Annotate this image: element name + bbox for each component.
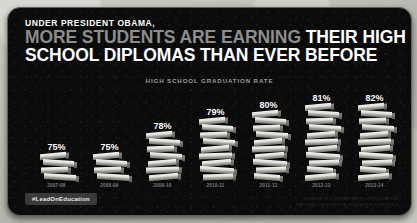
source-line-2: NATIONAL CENTER FOR EDUCATION STATISTICS [296,202,399,208]
book-icon [305,173,336,182]
book-icon [309,159,339,166]
bar-column: 80%2011-12 [242,100,295,188]
book-stack [146,132,180,180]
headline-line-2: SCHOOL DIPLOMAS THAN EVER BEFORE [25,47,399,65]
bar-category-label: 2011-12 [242,183,295,188]
book-stack [358,104,392,180]
book-icon [254,173,280,181]
bar-value-label: 75% [30,142,83,152]
infographic-card: UNDER PRESIDENT OBAMA, MORE STUDENTS ARE… [7,7,412,216]
source-credit: SOURCE: U.S. DEPARTMENT OF EDUCATION, NA… [296,196,399,207]
bar-value-label: 75% [83,142,136,152]
headline-line-1-white: THEIR HIGH [306,27,406,47]
bar-column: 78%2009-10 [136,121,189,188]
bar-value-label: 79% [189,107,242,117]
headline-block: UNDER PRESIDENT OBAMA, MORE STUDENTS ARE… [25,18,399,64]
book-stack [252,111,286,180]
hashtag-badge: #LeadOnEducation [25,193,97,205]
book-icon [149,173,178,182]
book-stack [305,104,339,180]
book-icon [256,166,286,173]
bar-category-label: 2013-14 [348,183,401,188]
bar-category-label: 2008-09 [83,183,136,188]
bar-column: 75%2007-08 [30,142,83,188]
bar-category-label: 2009-10 [136,183,189,188]
book-icon [358,173,389,182]
bar-category-label: 2007-08 [30,183,83,188]
bar-value-label: 78% [136,121,189,131]
book-stack [93,153,127,180]
source-line-1: SOURCE: U.S. DEPARTMENT OF EDUCATION, [296,196,399,202]
bar-column: 79%2010-11 [189,107,242,188]
headline-line-1: MORE STUDENTS ARE EARNING THEIR HIGH [25,29,399,47]
book-icon [203,173,233,180]
book-stack [40,153,74,180]
bar-column: 82%2013-14 [348,93,401,188]
bar-value-label: 80% [242,100,295,110]
book-icon [362,159,392,166]
bar-category-label: 2012-13 [295,183,348,188]
headline-line-1-gray: MORE STUDENTS ARE EARNING [25,27,306,47]
bar-value-label: 82% [348,93,401,103]
chart-subtitle: HIGH SCHOOL GRADUATION RATE [8,77,411,84]
graduation-rate-chart: 75%2007-0875%2008-0978%2009-1079%2010-11… [30,88,401,188]
bar-column: 81%2012-13 [295,93,348,188]
book-icon [44,173,76,181]
book-icon [97,173,129,181]
bar-value-label: 81% [295,93,348,103]
bar-category-label: 2010-11 [189,183,242,188]
book-stack [199,118,233,180]
bar-column: 75%2008-09 [83,142,136,188]
